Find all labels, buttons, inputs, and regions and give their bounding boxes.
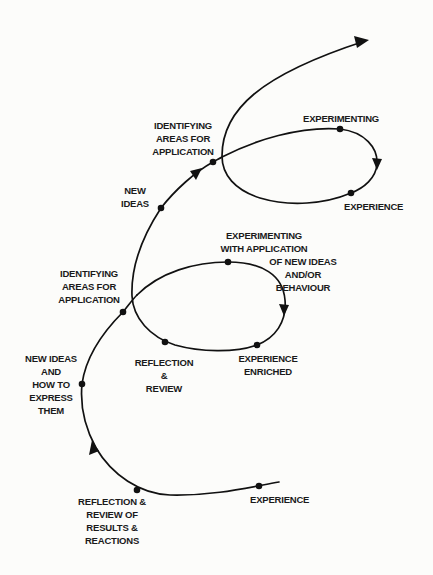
arrowhead-rise-2-icon	[190, 168, 202, 180]
label-of-new-ideas: OF NEW IDEAS AND/OR BEHAVIOUR	[262, 255, 344, 294]
label-new-ideas-express: NEW IDEAS AND HOW TO EXPRESS THEM	[20, 352, 82, 417]
node-dot-identifying-areas-2	[210, 159, 217, 166]
node-dot-experience-enriched	[254, 342, 261, 349]
label-experimenting: EXPERIMENTING	[303, 112, 379, 125]
arrowhead-bottom-icon	[89, 440, 99, 455]
label-experience-top: EXPERIENCE	[344, 200, 403, 213]
node-dot-experience-top	[348, 190, 355, 197]
node-dot-new-ideas	[158, 205, 165, 212]
label-experience-start: EXPERIENCE	[250, 493, 309, 506]
node-dot-experimenting	[337, 126, 344, 133]
arrowhead-upper-loop-icon	[372, 158, 382, 170]
label-experience-enriched: EXPERIENCE ENRICHED	[232, 352, 304, 378]
label-identifying-areas-2: IDENTIFYING AREAS FOR APPLICATION	[144, 119, 222, 158]
arrowhead-top-icon	[354, 36, 369, 48]
node-dot-reflection-review	[162, 339, 169, 346]
label-reflection-review: REFLECTION & REVIEW	[128, 356, 200, 395]
label-identifying-areas-1: IDENTIFYING AREAS FOR APPLICATION	[50, 267, 128, 306]
node-dot-identifying-areas-1	[120, 309, 127, 316]
label-reflection-review-results: REFLECTION & REVIEW OF RESULTS & REACTIO…	[72, 495, 152, 547]
spiral-path-bottom	[82, 384, 279, 495]
node-dot-reflection-review-results	[134, 487, 141, 494]
label-new-ideas: NEW IDEAS	[115, 184, 155, 210]
node-dot-experience-start	[256, 483, 263, 490]
arrowhead-lower-loop-icon	[279, 304, 289, 316]
label-experimenting-with-application: EXPERIMENTING WITH APPLICATION	[214, 229, 314, 255]
node-dot-experimenting-with-application	[225, 259, 232, 266]
